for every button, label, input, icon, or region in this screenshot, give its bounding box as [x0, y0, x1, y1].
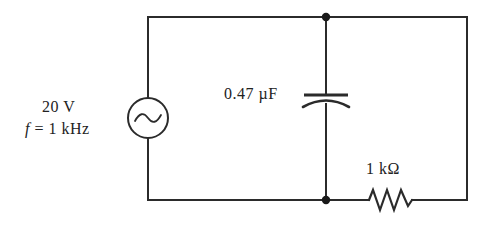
resistor-zigzag [369, 190, 412, 210]
circuit-diagram: 20 V f = 1 kHz 0.47 µF 1 kΩ [0, 0, 487, 226]
source-frequency-label: f = 1 kHz [25, 121, 90, 137]
resistor-value-label: 1 kΩ [366, 161, 400, 177]
frequency-value: 1 kHz [48, 120, 89, 137]
bottom-junction-dot [322, 196, 330, 204]
source-voltage-label: 20 V [42, 99, 75, 115]
capacitor-value-label: 0.47 µF [224, 86, 278, 102]
frequency-equals-sign: = [30, 120, 49, 137]
top-junction-dot [322, 13, 330, 21]
